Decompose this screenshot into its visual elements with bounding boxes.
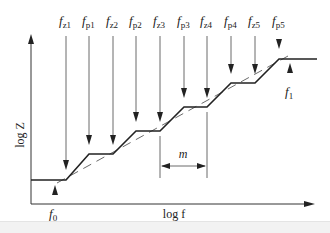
svg-text:f1: f1 <box>285 84 293 101</box>
y-axis <box>28 34 34 204</box>
svg-text:fp2: fp2 <box>129 13 142 30</box>
svg-text:fz1: fz1 <box>59 13 71 30</box>
frequency-arrows <box>63 36 282 170</box>
up-arrow-icon <box>52 185 58 195</box>
frequency-labels: fz1 fp1 fz2 fp2 fz3 fp3 fz4 fp4 fz5 fp5 <box>59 13 285 30</box>
f1-marker: f1 <box>285 63 293 101</box>
impedance-staircase-curve <box>31 59 317 180</box>
svg-text:fp4: fp4 <box>224 13 237 30</box>
right-arrow-icon <box>197 163 206 169</box>
svg-text:fz4: fz4 <box>200 13 213 30</box>
svg-text:fp1: fp1 <box>82 13 95 30</box>
x-axis-arrow-icon <box>304 201 315 207</box>
svg-text:fp3: fp3 <box>177 13 190 30</box>
diagram-canvas: log Z log f <box>0 0 330 233</box>
y-axis-arrow-icon <box>28 34 34 44</box>
impedance-staircase-diagram: log Z log f <box>0 0 330 233</box>
x-axis-label: log f <box>163 207 185 221</box>
svg-text:fz2: fz2 <box>106 13 118 30</box>
svg-text:fz3: fz3 <box>153 13 166 30</box>
y-axis-label: log Z <box>13 122 27 148</box>
svg-text:fz5: fz5 <box>248 13 261 30</box>
bottom-band <box>0 221 330 233</box>
left-arrow-icon <box>161 163 170 169</box>
interval-m-label: m <box>179 147 188 161</box>
up-arrow-icon <box>287 63 293 73</box>
interval-m-bracket: m <box>160 112 207 178</box>
svg-text:fp5: fp5 <box>272 13 285 30</box>
